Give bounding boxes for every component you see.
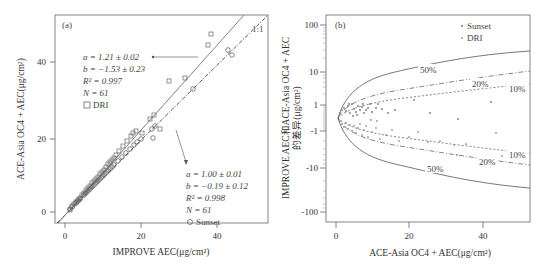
panel-a-ytick-20: 20 bbox=[37, 134, 47, 144]
panel-b-ytick-100: 100 bbox=[305, 20, 319, 30]
dri-fit-r2: R² = 0.997 bbox=[82, 76, 123, 86]
sunset-fit-r2: R² = 0.998 bbox=[185, 193, 226, 203]
panel-b-ylabel-line2: 的差异(μg/cm²) bbox=[291, 86, 303, 149]
panel-b-xlabel: ACE-Asia OC4 + AEC(μg/cm²) bbox=[369, 248, 491, 259]
envelope-label-20-lower: 20% bbox=[479, 157, 496, 167]
panel-b-label: (b) bbox=[335, 20, 346, 30]
envelope-label-10-lower: 10% bbox=[509, 150, 526, 160]
dri-fit-b: b = −1.53 ± 0.23 bbox=[83, 64, 146, 74]
panel-b-ylabel-line1: IMPROVE AEC和ACE-Asia OC4 + AEC bbox=[281, 37, 291, 199]
panel-b-ytick-neg10: -10 bbox=[306, 163, 318, 173]
dri-fit-n: N = 61 bbox=[82, 88, 109, 98]
panel-b-legend: Sunset DRI bbox=[461, 21, 492, 43]
sunset-dot-icon bbox=[461, 25, 463, 27]
panel-a-xlabel: IMPROVE AEC(μg/cm²) bbox=[113, 247, 210, 258]
legend-sunset: Sunset bbox=[467, 21, 492, 31]
panel-a-ylabel: ACE-Asia OC4 + AEC(μg/cm²) bbox=[16, 58, 27, 180]
one-to-one-label: 1:1 bbox=[252, 24, 264, 34]
figure: (a) 0 20 40 0 20 40 IMPROVE AEC(μg/cm²) … bbox=[0, 0, 548, 272]
dri-legend-square-icon bbox=[84, 102, 90, 108]
sunset-fit-a: a = 1.00 ± 0.01 bbox=[186, 169, 242, 179]
dri-dots bbox=[339, 119, 503, 157]
sunset-fit-annotation: a = 1.00 ± 0.01 b = −0.19 ± 0.12 R² = 0.… bbox=[176, 130, 249, 227]
panel-a-ytick-40: 40 bbox=[37, 57, 47, 67]
panel-b-ytick-10: 10 bbox=[309, 67, 319, 77]
dri-arrow-head-icon bbox=[152, 56, 154, 58]
envelope-10-lower bbox=[338, 118, 530, 153]
panel-b-frame bbox=[326, 15, 530, 222]
envelope-10-upper bbox=[338, 84, 530, 118]
dri-fit-annotation: a = 1.21 ± 0.02 b = −1.53 ± 0.23 R² = 0.… bbox=[82, 52, 198, 110]
panel-b: (b) 100 10 1 -1 -10 -100 bbox=[281, 15, 530, 259]
envelope-label-10-upper: 10% bbox=[509, 84, 526, 94]
sunset-arrow-head-icon bbox=[184, 160, 188, 165]
panel-b-ytick-neg1: -1 bbox=[311, 126, 319, 136]
envelope-label-20-upper: 20% bbox=[472, 79, 489, 89]
one-to-one-line bbox=[57, 15, 268, 223]
dri-fit-a: a = 1.21 ± 0.02 bbox=[83, 52, 140, 62]
panel-b-ytick-neg100: -100 bbox=[302, 207, 319, 217]
envelope-50-lower bbox=[338, 118, 530, 188]
sunset-fit-b: b = −0.19 ± 0.12 bbox=[186, 181, 249, 191]
panel-a-label: (a) bbox=[62, 20, 72, 30]
panel-a-xtick-40: 40 bbox=[213, 231, 223, 241]
dri-dot-icon bbox=[461, 37, 463, 39]
panel-b-xticks bbox=[336, 222, 483, 228]
panel-a-xtick-0: 0 bbox=[63, 231, 68, 241]
dri-legend-label: DRI bbox=[93, 100, 109, 110]
panel-a: (a) 0 20 40 0 20 40 IMPROVE AEC(μg/cm²) … bbox=[16, 15, 268, 258]
panel-b-xtick-0: 0 bbox=[334, 231, 339, 241]
panel-b-minor-ticks bbox=[323, 28, 326, 208]
envelope-label-50-upper: 50% bbox=[420, 65, 437, 75]
sunset-legend-label: Sunset bbox=[196, 217, 221, 227]
sunset-dots bbox=[339, 99, 492, 120]
panel-b-xtick-20: 20 bbox=[405, 231, 415, 241]
panel-a-ytick-0: 0 bbox=[42, 207, 47, 217]
panel-b-xtick-40: 40 bbox=[479, 231, 489, 241]
sunset-legend-circle-icon bbox=[188, 220, 193, 225]
sunset-fit-n: N = 61 bbox=[185, 205, 212, 215]
panel-b-yticks bbox=[320, 25, 326, 212]
legend-dri: DRI bbox=[467, 33, 483, 43]
sunset-arrow bbox=[176, 130, 186, 162]
envelope-label-50-lower: 50% bbox=[427, 164, 444, 174]
panel-b-ytick-1: 1 bbox=[314, 100, 319, 110]
panel-a-xtick-20: 20 bbox=[137, 231, 147, 241]
